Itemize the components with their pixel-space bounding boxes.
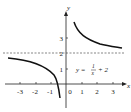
svg-text:-2: -2 — [32, 88, 38, 96]
svg-text:3: 3 — [60, 35, 64, 43]
svg-text:1: 1 — [92, 63, 95, 69]
svg-text:+ 2: + 2 — [98, 66, 108, 74]
y-axis-label: y — [66, 4, 71, 12]
svg-text:1: 1 — [60, 66, 64, 74]
svg-text:-1: -1 — [47, 88, 53, 96]
function-graph: x y -3 -2 -1 0 1 2 3 1 2 3 y = 1 x + 2 — [0, 0, 131, 112]
svg-text:-3: -3 — [17, 88, 23, 96]
svg-text:2: 2 — [95, 88, 99, 96]
svg-text:1: 1 — [80, 88, 84, 96]
function-label: y = 1 x + 2 — [75, 63, 108, 76]
svg-text:0: 0 — [68, 88, 72, 96]
curve-right-branch — [74, 22, 122, 48]
svg-text:y =: y = — [75, 66, 86, 74]
y-tick-labels: 1 2 3 — [60, 35, 64, 74]
svg-text:3: 3 — [111, 88, 115, 96]
svg-text:2: 2 — [60, 50, 64, 58]
x-axis-label: x — [126, 82, 131, 90]
svg-text:x: x — [91, 70, 95, 76]
